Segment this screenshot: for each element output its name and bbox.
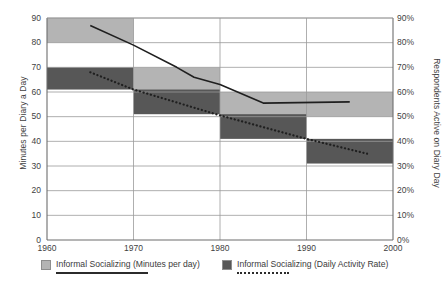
y-axis-right-tick-label: 20% <box>397 186 423 195</box>
y-axis-left-tick-label: 30 <box>19 162 41 171</box>
y-axis-right-tick-label: 70% <box>397 63 423 72</box>
y-axis-right-tick-label: 10% <box>397 211 423 220</box>
legend-item-label: Informal Socializing (Minutes per day) <box>56 258 200 270</box>
legend-line-solid-icon <box>56 272 148 274</box>
x-axis-tick-label: 1970 <box>114 244 154 253</box>
y-axis-right-tick-label: 60% <box>397 88 423 97</box>
chart-legend: Informal Socializing (Minutes per day)In… <box>0 258 445 284</box>
y-axis-right-tick-label: 30% <box>397 162 423 171</box>
y-axis-left-tick-label: 20 <box>19 186 41 195</box>
chart-container: Minutes per Diary a Day Respondents Acti… <box>0 0 445 289</box>
legend-swatch-icon <box>222 260 232 270</box>
y-axis-left-tick-label: 40 <box>19 137 41 146</box>
y-axis-left-tick-label: 90 <box>19 14 41 23</box>
y-axis-left-title: Minutes per Diary a Day <box>18 53 28 193</box>
bar-band-1-0 <box>47 67 134 89</box>
y-axis-right-tick-label: 50% <box>397 112 423 121</box>
bar-band-0-1 <box>134 67 221 92</box>
x-axis-tick-label: 1990 <box>287 244 327 253</box>
y-axis-right-tick-label: 40% <box>397 137 423 146</box>
y-axis-left-tick-label: 70 <box>19 63 41 72</box>
y-axis-left-tick-label: 10 <box>19 211 41 220</box>
y-axis-left-tick-label: 60 <box>19 88 41 97</box>
legend-line-dotted-icon <box>237 272 289 274</box>
y-axis-right-tick-label: 90% <box>397 14 423 23</box>
x-axis-tick-label: 1980 <box>200 244 240 253</box>
x-axis-tick-label: 1960 <box>27 244 67 253</box>
x-axis-tick-label: 2000 <box>373 244 413 253</box>
y-axis-right-tick-label: 80% <box>397 38 423 47</box>
y-axis-left-tick-label: 80 <box>19 38 41 47</box>
legend-swatch-icon <box>41 260 51 270</box>
y-axis-left-tick-label: 50 <box>19 112 41 121</box>
legend-item-label: Informal Socializing (Daily Activity Rat… <box>237 258 388 270</box>
y-axis-right-title: Respondents Active on Diary Day <box>432 43 442 203</box>
